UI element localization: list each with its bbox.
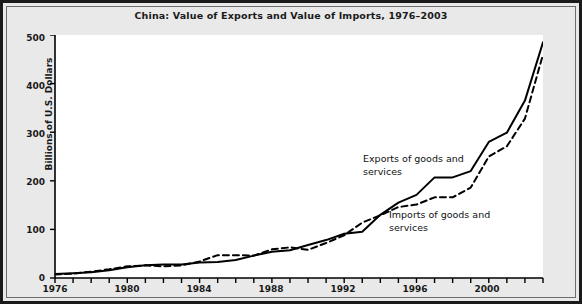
y-tick-label-300: 300 xyxy=(11,129,45,139)
exports-annotation-label: Exports of goods and services xyxy=(363,153,464,178)
chart-title: China: Value of Exports and Value of Imp… xyxy=(3,10,579,21)
y-tick-label-400: 400 xyxy=(11,81,45,91)
y-tick-label-500: 500 xyxy=(11,33,45,43)
chart-figure: China: Value of Exports and Value of Imp… xyxy=(0,0,582,304)
imports-annotation-label: Imports of goods and services xyxy=(389,209,490,234)
y-tick-label-0: 0 xyxy=(11,273,45,283)
y-tick-label-100: 100 xyxy=(11,225,45,235)
plot-area xyxy=(55,35,543,278)
axis-lines-svg xyxy=(49,35,549,295)
y-tick-label-200: 200 xyxy=(11,177,45,187)
